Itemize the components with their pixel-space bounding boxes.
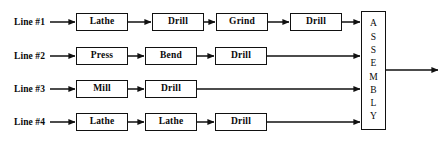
assembly-letter-2: S (371, 31, 376, 44)
process-box-line1-step3[interactable]: Grind (216, 13, 268, 31)
line-label-1: Line #1 (14, 17, 45, 27)
process-box-label: Drill (231, 51, 251, 61)
process-box-line4-step3[interactable]: Drill (215, 113, 267, 131)
process-box-label: Drill (231, 117, 251, 127)
assembly-letter-5: M (369, 71, 377, 84)
process-box-line1-step4[interactable]: Drill (290, 13, 342, 31)
process-box-label: Press (91, 51, 113, 61)
process-box-line1-step2[interactable]: Drill (152, 13, 204, 31)
process-box-line4-step1[interactable]: Lathe (76, 113, 128, 131)
process-box-label: Bend (160, 51, 182, 61)
process-box-line3-step2[interactable]: Drill (145, 80, 197, 98)
assembly-letter-4: E (371, 57, 377, 70)
process-box-label: Lathe (159, 117, 184, 127)
process-box-line2-step3[interactable]: Drill (215, 47, 267, 65)
assembly-letter-1: A (370, 17, 377, 30)
assembly-letter-6: B (370, 84, 376, 97)
process-box-label: Drill (306, 17, 326, 27)
process-box-label: Lathe (90, 117, 115, 127)
line-label-4: Line #4 (14, 117, 45, 127)
process-flow-diagram: Line #1 Line #2 Line #3 Line #4 Lathe Dr… (0, 0, 448, 142)
process-box-line4-step2[interactable]: Lathe (145, 113, 197, 131)
assembly-letter-3: S (371, 44, 376, 57)
process-box-label: Grind (229, 17, 255, 27)
process-box-line1-step1[interactable]: Lathe (76, 13, 128, 31)
process-box-label: Lathe (90, 17, 115, 27)
process-box-line2-step1[interactable]: Press (76, 47, 128, 65)
process-box-label: Mill (93, 84, 111, 94)
process-box-label: Drill (161, 84, 181, 94)
process-box-line3-step1[interactable]: Mill (76, 80, 128, 98)
line-label-2: Line #2 (14, 51, 45, 61)
process-box-label: Drill (168, 17, 188, 27)
process-box-line2-step2[interactable]: Bend (145, 47, 197, 65)
line-label-3: Line #3 (14, 84, 45, 94)
assembly-letter-8: Y (370, 110, 377, 123)
assembly-letter-7: L (371, 97, 377, 110)
assembly-box[interactable]: A S S E M B L Y (361, 11, 386, 130)
